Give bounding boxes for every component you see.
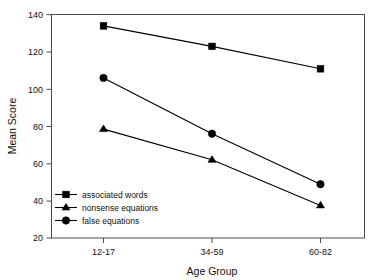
x-tick-label-3: 60-82 [309, 247, 332, 257]
y-tick-label-100: 100 [28, 85, 43, 95]
data-point-marker [100, 23, 107, 30]
y-tick-label-40: 40 [33, 196, 43, 206]
y-tick-label-120: 120 [28, 47, 43, 57]
y-tick-label-80: 80 [33, 122, 43, 132]
legend-label-nonsense-equations: nonsense equations [82, 203, 158, 213]
data-point-marker [317, 181, 324, 188]
x-tick-label-1: 12-17 [92, 247, 115, 257]
chart-svg: 140 120 100 80 60 40 20 12-17 34-59 60-8… [0, 0, 376, 280]
data-point-marker [317, 66, 324, 73]
y-tick-label-20: 20 [33, 233, 43, 243]
legend-circle-icon [62, 217, 69, 224]
data-point-marker [209, 43, 216, 50]
data-point-marker [100, 74, 107, 81]
x-tick-label-2: 34-59 [200, 247, 223, 257]
legend-label-false-equations: false equations [82, 216, 139, 226]
line-chart-figure: 140 120 100 80 60 40 20 12-17 34-59 60-8… [0, 0, 376, 280]
x-axis-title: Age Group [187, 265, 238, 277]
legend-square-icon [63, 191, 70, 198]
legend-label-associated-words: associated words [82, 190, 148, 200]
data-point-marker [208, 130, 215, 137]
y-tick-label-60: 60 [33, 159, 43, 169]
y-axis-title: Mean Score [6, 98, 18, 155]
y-tick-label-140: 140 [28, 10, 43, 20]
